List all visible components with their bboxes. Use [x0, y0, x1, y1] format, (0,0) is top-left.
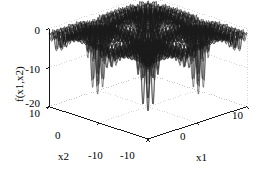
surface-plot-figure: 0 -10 -20 f(x1,x2) 10 0 -10 -10 0 10 x2 … [0, 0, 259, 175]
x2tick-label-0: 0 [55, 130, 61, 141]
x2tick-label-minus10: -10 [88, 150, 103, 161]
x1tick-label-0: 0 [180, 131, 186, 142]
x2tick-label-10: 10 [29, 108, 40, 119]
ztick-label-0: 0 [26, 25, 40, 36]
x1-axis-title: x1 [196, 152, 207, 163]
x2-axis-title: x2 [58, 151, 69, 162]
x1tick-label-minus10: -10 [120, 150, 135, 161]
x1tick-label-10: 10 [232, 110, 243, 121]
mesh-surface-layer [49, 1, 247, 111]
z-axis-title: f(x1,x2) [14, 66, 25, 102]
